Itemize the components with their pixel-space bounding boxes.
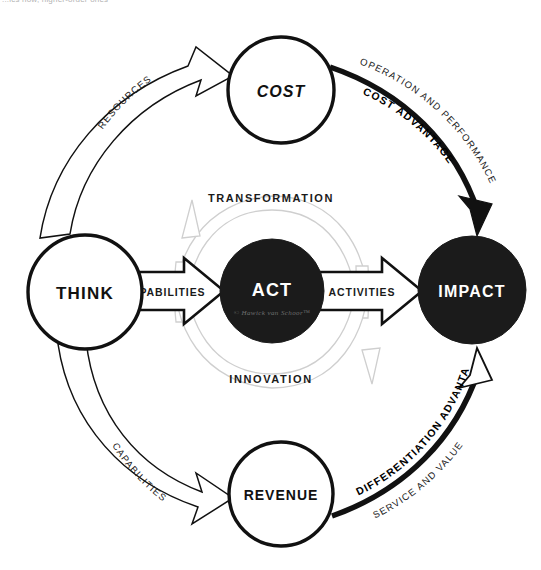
diagram-canvas: RESOURCES CAPABILITIES OPERATION AND PER… <box>0 0 541 570</box>
cost-label: COST <box>257 83 306 100</box>
node-revenue[interactable]: REVENUE <box>229 442 333 546</box>
cost-to-impact-arrowhead <box>459 196 492 236</box>
transformation-arrowhead <box>182 200 200 238</box>
label-transformation: TRANSFORMATION <box>208 192 334 204</box>
arrow-think-to-revenue <box>58 340 233 524</box>
label-cost-advantage: COST ADVANTAGE <box>361 85 457 166</box>
label-innovation: INNOVATION <box>229 373 312 385</box>
label-operation-and-performance: OPERATION AND PERFORMANCE <box>359 56 499 186</box>
think-label: THINK <box>56 284 114 303</box>
act-to-impact-arrow-label: ACTIVITIES <box>329 286 396 298</box>
revenue-label: REVENUE <box>244 487 319 503</box>
node-act[interactable]: ACT © Hawick van Schoor™ <box>220 239 324 343</box>
cost-to-impact-shaft <box>330 67 478 212</box>
node-impact[interactable]: IMPACT <box>418 236 526 344</box>
act-signature: © Hawick van Schoor™ <box>234 309 311 317</box>
clipped-header-text: ...ics now, higher-order ones <box>2 0 302 5</box>
impact-label: IMPACT <box>438 283 505 300</box>
think-to-cost-shaft <box>40 47 233 238</box>
diagram-root: ...ics now, higher-order ones <box>0 0 541 570</box>
think-to-revenue-shaft <box>58 340 233 524</box>
arrow-act-to-impact: ACTIVITIES <box>320 258 422 324</box>
node-think[interactable]: THINK <box>28 235 142 349</box>
arrow-think-to-cost <box>40 47 233 238</box>
innovation-arrowhead <box>362 348 380 384</box>
act-label: ACT <box>252 280 293 300</box>
node-cost[interactable]: COST <box>228 37 334 143</box>
